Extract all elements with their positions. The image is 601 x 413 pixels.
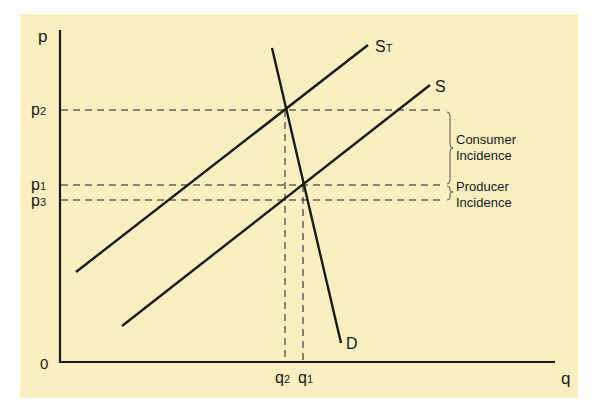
supply-label: S <box>435 78 446 95</box>
p3-label: p3 <box>31 192 46 209</box>
producer-incidence-line2: Incidence <box>456 195 512 210</box>
producer-incidence-brace <box>447 186 453 200</box>
producer-incidence-line1: Producer <box>456 179 509 194</box>
demand-label: D <box>346 335 358 352</box>
q2-label: q2 <box>275 369 290 386</box>
p2-label: p2 <box>31 101 46 118</box>
consumer-incidence-line2: Incidence <box>456 148 512 163</box>
y-axis-label: p <box>38 27 47 46</box>
consumer-incidence-line1: Consumer <box>456 132 517 147</box>
q1-label: q1 <box>298 369 313 386</box>
incidence-chart: p q 0 p2 p1 p3 q2 q1 ST S D Consumer Inc… <box>0 0 601 413</box>
x-axis-label: q <box>561 369 570 388</box>
supply-with-tax-label: ST <box>375 38 393 55</box>
origin-label: 0 <box>40 355 48 372</box>
p1-label: p1 <box>31 176 46 193</box>
supply-with-tax-line <box>76 45 368 272</box>
supply-line <box>122 85 430 326</box>
consumer-incidence-brace <box>447 112 453 184</box>
